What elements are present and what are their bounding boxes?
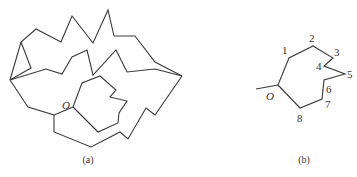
vertex-label-8: 8 <box>297 112 303 124</box>
vertex-label-5: 5 <box>347 68 353 80</box>
caption-a: (a) <box>82 154 93 166</box>
vertex-label-7: 7 <box>325 98 331 110</box>
caption-b: (b) <box>298 154 310 166</box>
figure-b: O 1 2 3 4 5 6 7 8 (b) <box>256 32 353 166</box>
vertex-label-4: 4 <box>316 60 322 72</box>
origin-label-b: O <box>266 90 274 102</box>
outer-bottom-chain <box>10 76 182 147</box>
vertex-label-6: 6 <box>326 83 332 95</box>
middle-chain <box>10 50 182 80</box>
origin-label-a: O <box>62 99 70 111</box>
vertex-label-1: 1 <box>282 44 288 56</box>
vertex-label-3: 3 <box>334 46 340 58</box>
figure-a: O (a) <box>10 10 182 166</box>
inner-loop <box>73 76 127 132</box>
vertex-label-2: 2 <box>309 32 315 44</box>
diagram-canvas: O (a) O 1 2 3 4 5 6 7 8 (b) <box>0 0 357 177</box>
